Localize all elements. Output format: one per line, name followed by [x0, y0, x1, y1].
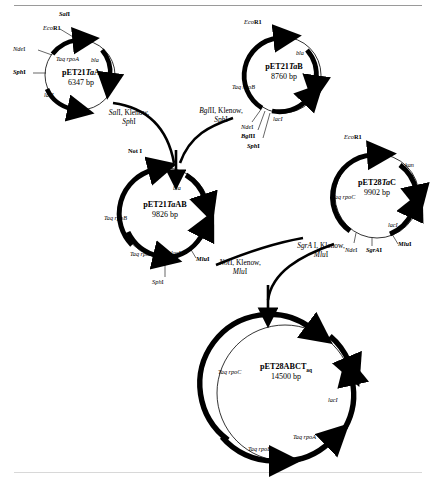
site-label-sphI-pET21TaAB: SphI	[152, 279, 164, 286]
plasmid-pET28ABCTaq-backbone	[200, 314, 354, 461]
site-label-ecoR1-pET28TaC: EcoR1	[344, 134, 362, 141]
site-label-salI-pET21TaA: SalI	[59, 11, 70, 18]
site-label-bglII-pET21TaB: BglII	[241, 133, 255, 140]
gene-label-lacI-pET21TaAB: lacI	[171, 250, 181, 257]
gene-label-lacI-pET28ABCTaq: lacI	[328, 397, 338, 404]
gene-label-bla-pET21TaA: bla	[91, 57, 99, 64]
gene-label-rpoB-pET21TaB: Taq rpoB	[232, 84, 255, 91]
site-label-mluI-pET28TaC: MluI	[398, 241, 412, 248]
arc-gene-kan	[330, 336, 349, 362]
gene-label-rpoC-pET28ABCTaq: Taq rpoC	[218, 369, 241, 376]
plasmid-size-pET21TaAB: 9826 bp	[129, 211, 201, 219]
gene-label-kan-pET28ABCTaq: kan	[301, 331, 310, 338]
arc-gene-rpoA	[53, 40, 78, 54]
arrow-step-bglII-klenow-sphI	[180, 118, 233, 163]
plasmid-name-pET21TaB: pET21TaB	[248, 63, 320, 72]
step-label-bglII-klenow-sphI: BglII, Klenow, SphI	[182, 106, 260, 125]
step-label-sgrAI-klenow-mluI: SgrA I, Klenow, MluI	[281, 241, 361, 260]
arc-gene-lacI	[345, 380, 354, 428]
plasmid-size-pET21TaB: 8760 bp	[248, 73, 320, 81]
step-label-salI-klenow-sphI: SalI, Klenow, SphI	[91, 108, 167, 127]
site-label-ndeI-pET21TaB: NdeI	[241, 124, 253, 131]
plasmid-size-pET21TaA: 6347 bp	[46, 79, 116, 87]
plasmid-name-pET28TaC: pET28TaC	[341, 179, 413, 188]
arc-gene-lacI	[272, 100, 307, 112]
gene-label-rpoA-pET21TaAB: Taq rpoA	[130, 251, 153, 258]
gene-label-lacI-pET28TaC: lacI	[388, 222, 398, 229]
plasmid-name-pET21TaA: pET21TaA	[46, 69, 116, 78]
site-label-notI-pET21TaAB: Not I	[128, 148, 142, 155]
plasmid-construction-figure: SalI EcoR1 NdeI SphI Taq rpoA bla lacI p…	[0, 0, 436, 478]
plasmid-name-pET21TaAB: pET21TaAB	[129, 201, 201, 210]
step-label-notI-klenow-mluI: NotI, Klenow, MluI	[202, 258, 278, 277]
site-label-ecoR1-pET21TaA: EcoR1	[43, 25, 61, 32]
site-label-sgrAI-pET28TaC: SgrAI	[366, 247, 382, 254]
gene-label-rpoA-pET28ABCTaq: Taq rpoA	[293, 434, 316, 441]
site-label-ecoR1-pET21TaB: EcoR1	[244, 19, 262, 26]
gene-label-bla-pET21TaAB: bla	[173, 185, 181, 192]
gene-label-rpoA-pET21TaA: Taq rpoA	[56, 56, 79, 63]
gene-label-lacI-pET21TaB: lacI	[273, 116, 283, 123]
arc-gene-rpoA	[282, 442, 330, 461]
plasmid-size-pET28TaC: 9902 bp	[341, 189, 413, 197]
site-label-sphI-pET21TaB: SphI	[247, 143, 260, 150]
gene-label-rpoB-pET21TaAB: Taq rpoB	[104, 215, 127, 222]
gene-label-lacI-pET21TaA: lacI	[44, 92, 54, 99]
site-label-sphI-pET21TaA: SphI	[13, 69, 26, 76]
site-label-ndeI-pET21TaA: NdeI	[13, 46, 25, 53]
plasmid-size-pET28ABCTaq: 14500 bp	[241, 373, 331, 381]
gene-label-rpoB-pET28ABCTaq: Taq rpoB	[248, 446, 271, 453]
gene-label-kan-pET28TaC: kan	[405, 162, 414, 169]
gene-label-bla-pET21TaB: bla	[296, 50, 304, 57]
